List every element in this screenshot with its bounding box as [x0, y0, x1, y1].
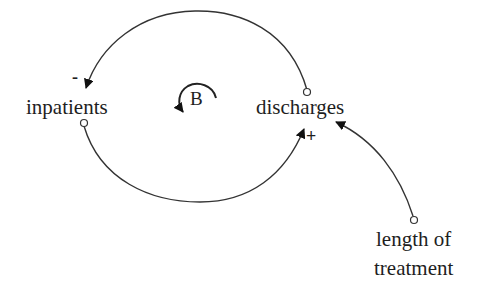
polarity-positive: + [306, 127, 316, 145]
node-length-of-treatment-line1: length of [376, 227, 451, 251]
link-discharges-to-inpatients [86, 11, 307, 90]
node-length-of-treatment-line2: treatment [374, 256, 453, 280]
loop-label-balancing: B [190, 89, 203, 109]
link-origin-circle-length [411, 217, 418, 224]
link-inpatients-to-discharges [84, 126, 304, 202]
link-length-to-discharges [336, 122, 413, 216]
diagram-canvas [0, 0, 497, 296]
node-inpatients: inpatients [26, 95, 108, 119]
polarity-negative: - [72, 68, 78, 86]
node-discharges: discharges [256, 95, 344, 119]
link-origin-circle-inpatients [81, 120, 88, 127]
